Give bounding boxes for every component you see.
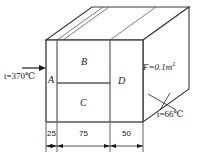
box-front-face	[46, 40, 143, 122]
front-face-outline	[46, 40, 143, 122]
section-label-d: D	[118, 76, 125, 86]
area-label-text: F=0.1m	[143, 62, 172, 72]
dimension-label-25: 25	[42, 130, 61, 138]
area-label-exponent: 2	[172, 61, 175, 67]
section-label-c: C	[80, 98, 87, 108]
dim-arrow-1l	[51, 144, 57, 148]
hot-side-temperature-label: t=370℃	[4, 72, 35, 81]
cold-side-temperature-label: t=66℃	[157, 110, 184, 119]
heat-flow-arrow-head	[39, 65, 46, 71]
dimension-label-50: 50	[117, 130, 136, 138]
dimension-label-75: 75	[74, 130, 93, 138]
dim-arrow-1r	[57, 144, 63, 148]
dim-arrow-2r	[110, 144, 116, 148]
section-label-a: A	[48, 75, 54, 85]
dim-arrow-3l	[137, 144, 143, 148]
figure-canvas: t=370℃ A B C D F=0.1m2 t=66℃ 25 75 50	[0, 0, 199, 156]
section-label-b: B	[81, 57, 87, 67]
area-label: F=0.1m2	[143, 61, 175, 72]
dim-arrow-2l	[104, 144, 110, 148]
